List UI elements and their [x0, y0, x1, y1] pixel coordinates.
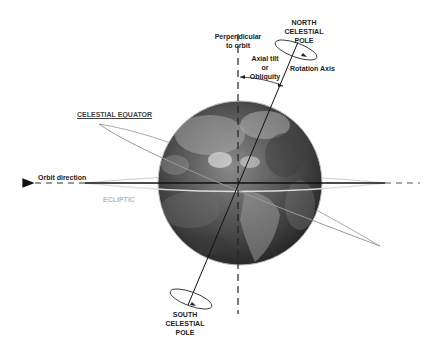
north-pole-line-1: NORTH: [284, 18, 324, 27]
north-celestial-pole-label: NORTH CELESTIAL POLE: [284, 18, 324, 45]
ecliptic-label: ECLIPTIC: [103, 195, 135, 204]
axial-tilt-line-1: Axial tilt: [245, 54, 285, 63]
axial-tilt-line-3: Obliquity: [245, 72, 285, 81]
perpendicular-line-2: to orbit: [208, 41, 268, 50]
perpendicular-line-1: Perpendicular: [208, 32, 268, 41]
celestial-equator-label: CELESTIAL EQUATOR: [77, 110, 152, 119]
south-pole-line-1: SOUTH: [165, 310, 205, 319]
orbit-direction-label: Orbit direction: [38, 173, 86, 182]
north-pole-line-3: POLE: [284, 36, 324, 45]
axial-tilt-line-2: or: [245, 63, 285, 72]
south-pole-line-2: CELESTIAL: [165, 319, 205, 328]
north-pole-line-2: CELESTIAL: [284, 27, 324, 36]
perpendicular-to-orbit-label: Perpendicular to orbit: [208, 32, 268, 50]
south-celestial-pole-label: SOUTH CELESTIAL POLE: [165, 310, 205, 337]
south-pole-line-3: POLE: [165, 328, 205, 337]
rotation-axis-label: Rotation Axis: [290, 64, 335, 73]
axial-tilt-label: Axial tilt or Obliquity: [245, 54, 285, 81]
